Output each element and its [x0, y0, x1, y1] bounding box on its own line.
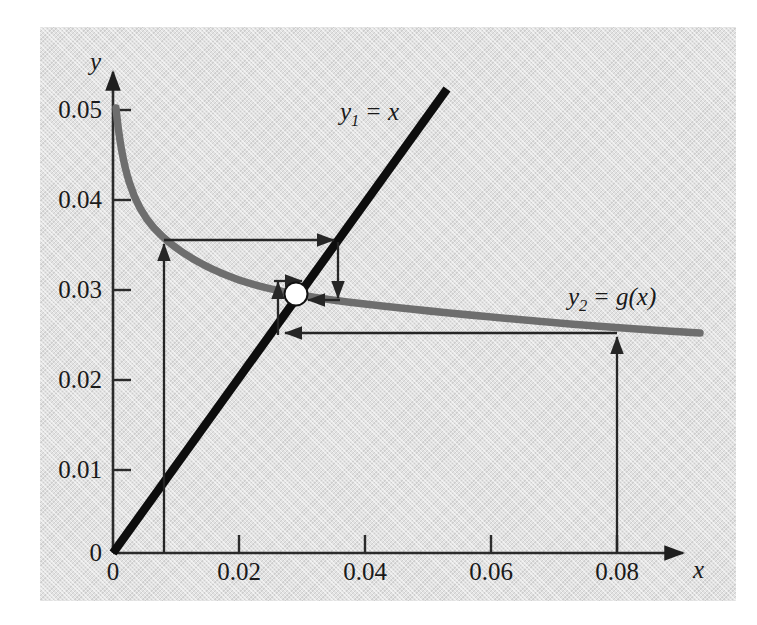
y-tick-label-0.05: 0.05 [28, 96, 102, 124]
g-curve-label: y2 = g(x) [568, 283, 656, 316]
identity-label-rhs: x [388, 98, 399, 125]
y-tick-label-0.04: 0.04 [28, 186, 102, 214]
g-label-rhs: g(x) [616, 283, 656, 310]
y-tick-label-0.01: 0.01 [28, 456, 102, 484]
x-tick-label-0: 0 [93, 558, 133, 586]
y-tick-label-0: 0 [28, 539, 102, 567]
g-label-lead: y [568, 283, 579, 310]
y-tick-label-0.03: 0.03 [28, 276, 102, 304]
y-axis-label: y [90, 48, 101, 76]
g-label-equals: = [587, 283, 616, 310]
x-tick-label-0.02: 0.02 [199, 558, 279, 586]
x-tick-label-0.04: 0.04 [325, 558, 405, 586]
identity-line-label: y1 = x [340, 98, 399, 131]
identity-label-lead: y [340, 98, 351, 125]
figure-root: 0.05 0.04 0.03 0.02 0.01 0 0 0.02 0.04 0… [0, 0, 757, 625]
y-tick-label-0.02: 0.02 [28, 366, 102, 394]
x-axis-label: x [693, 556, 704, 584]
x-tick-label-0.08: 0.08 [577, 558, 657, 586]
x-tick-label-0.06: 0.06 [451, 558, 531, 586]
identity-label-equals: = [359, 98, 388, 125]
